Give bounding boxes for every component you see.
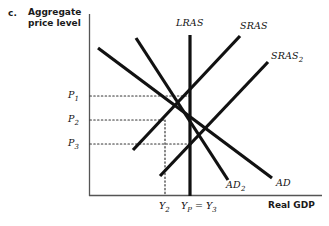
curve-ad2	[136, 38, 228, 180]
curve-label-lras: LRAS	[176, 17, 204, 28]
curve-sras	[133, 36, 240, 150]
curve-label-ad2-text: AD	[226, 179, 241, 190]
x-tick-label-y3-subscript: 3	[212, 206, 216, 214]
y-tick-label-p3: P3	[68, 137, 79, 151]
x-tick-label-equals: =	[192, 200, 206, 211]
y-tick-label-p2: P2	[68, 113, 79, 127]
curve-label-sras: SRAS	[240, 20, 268, 31]
curve-label-ad2-subscript: 2	[241, 185, 246, 193]
y-tick-label-p1: P1	[68, 89, 79, 103]
y-tick-label-p1-subscript: 1	[74, 95, 78, 103]
curve-label-ad: AD	[276, 177, 291, 188]
plot-canvas	[0, 0, 329, 226]
curve-label-sras2: SRAS2	[271, 50, 304, 64]
aggregate-supply-demand-figure: c. Aggregate price level Real GDP LRAS S…	[0, 0, 329, 226]
curve-label-sras2-text: SRAS	[271, 50, 299, 61]
x-tick-label-y2: Y2	[159, 200, 170, 214]
y-tick-label-p3-subscript: 3	[74, 143, 78, 151]
curve-label-sras2-subscript: 2	[299, 56, 304, 64]
curve-label-ad2: AD2	[226, 179, 246, 193]
x-tick-label-y2-subscript: 2	[165, 206, 169, 214]
curve-label-sras-text: SRAS	[240, 20, 268, 31]
x-tick-label-yp-y3: YP = Y3	[181, 200, 217, 214]
y-tick-label-p2-subscript: 2	[74, 119, 78, 127]
